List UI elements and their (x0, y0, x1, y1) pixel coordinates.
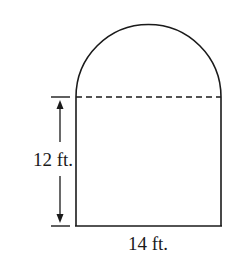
width-label: 14 ft. (128, 233, 168, 254)
height-label: 12 ft. (33, 149, 73, 170)
composite-shape-diagram: 12 ft. 14 ft. (0, 0, 237, 261)
arrow-up-icon (57, 100, 64, 109)
semicircle-arc (76, 25, 221, 98)
arrow-down-icon (57, 214, 64, 223)
